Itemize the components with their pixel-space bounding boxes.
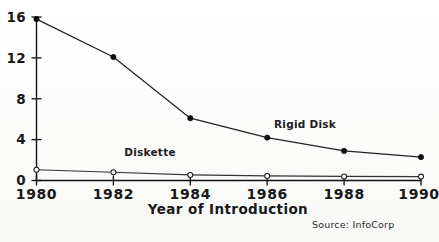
x-tick-label-1980: 1980	[16, 186, 57, 202]
axes-group	[37, 17, 422, 181]
y-tick-labels: 0 4 8 12 16	[7, 9, 26, 188]
x-tick-label-1990: 1990	[398, 186, 439, 202]
x-tick-label-1986: 1986	[247, 186, 288, 202]
rigid-disk-point-1982	[111, 54, 116, 59]
rigid-disk-point-1986	[265, 135, 270, 140]
series-label-diskette: Diskette	[124, 146, 176, 158]
y-tick-label-12: 12	[7, 50, 26, 66]
diskette-line	[37, 170, 422, 177]
y-tick-label-16: 16	[7, 9, 26, 25]
rigid-disk-point-1988	[342, 148, 347, 153]
rigid-disk-point-1990	[418, 155, 423, 160]
source-note: Source: InfoCorp	[312, 219, 394, 230]
x-tick-label-1988: 1988	[323, 186, 364, 202]
diskette-point-1988	[342, 174, 347, 179]
chart-page: 0 4 8 12 16 1980 1982 1984 1986 1988 199…	[0, 0, 439, 242]
x-tick-labels: 1980 1982 1984 1986 1988 1990	[16, 186, 439, 202]
diskette-point-1984	[188, 172, 193, 177]
rigid-disk-line	[37, 19, 422, 157]
x-tick-label-1984: 1984	[170, 186, 211, 202]
rigid-disk-point-1984	[188, 116, 193, 121]
y-tick-label-4: 4	[16, 131, 26, 147]
diskette-point-1986	[265, 173, 270, 178]
diskette-point-1982	[111, 170, 116, 175]
y-tick-label-8: 8	[16, 91, 26, 107]
diskette-point-1990	[419, 174, 424, 179]
line-chart: 0 4 8 12 16 1980 1982 1984 1986 1988 199…	[0, 0, 439, 242]
x-axis-title: Year of Introduction	[147, 201, 308, 217]
rigid-disk-point-1980	[34, 17, 39, 22]
diskette-point-1980	[34, 167, 39, 172]
x-tick-label-1982: 1982	[93, 186, 134, 202]
series-rigid-disk	[34, 17, 424, 160]
series-label-rigid-disk: Rigid Disk	[274, 118, 337, 130]
series-diskette	[34, 167, 424, 179]
